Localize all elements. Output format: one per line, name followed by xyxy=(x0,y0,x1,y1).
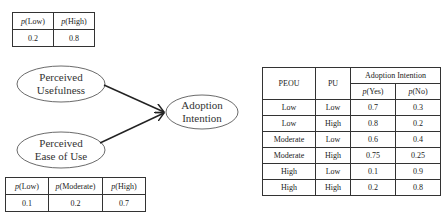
value-cell: 0.7 xyxy=(103,195,146,212)
label-line: Perceived xyxy=(17,137,105,150)
table-row: HighHigh0.20.8 xyxy=(263,180,441,196)
cell: Low xyxy=(316,100,351,116)
cell: 0.7 xyxy=(351,100,396,116)
adoption-intention-cpt: PEOU PU Adoption Intention p(Yes) p(No) … xyxy=(262,67,441,196)
node-label-pu: Perceived Usefulness xyxy=(17,71,105,97)
pu-probability-table: p(Low) p(High) 0.2 0.8 xyxy=(12,12,95,47)
header-cell: p(Low) xyxy=(13,13,54,30)
cell: High xyxy=(263,164,316,180)
label-line: Adoption xyxy=(166,99,238,112)
cell: 0.2 xyxy=(396,116,441,132)
value-cell: 0.2 xyxy=(49,195,103,212)
cell: Low xyxy=(263,116,316,132)
edge-pu-to-ai xyxy=(104,85,164,112)
header-cell: p(High) xyxy=(103,178,146,195)
header-cell: p(Yes) xyxy=(351,84,396,100)
cell: High xyxy=(263,180,316,196)
header-adoption-intention: Adoption Intention xyxy=(351,68,441,84)
cell: 0.1 xyxy=(351,164,396,180)
value-cell: 0.1 xyxy=(6,195,49,212)
table-row: LowLow0.70.3 xyxy=(263,100,441,116)
header-cell: p(No) xyxy=(396,84,441,100)
table-row: HighLow0.10.9 xyxy=(263,164,441,180)
label-line: Usefulness xyxy=(17,84,105,97)
cell: Low xyxy=(263,100,316,116)
cell: 0.8 xyxy=(351,116,396,132)
peou-probability-table: p(Low) p(Moderate) p(High) 0.1 0.2 0.7 xyxy=(5,177,146,212)
cell: 0.8 xyxy=(396,180,441,196)
value-cell: 0.2 xyxy=(13,30,54,47)
cell: 0.2 xyxy=(351,180,396,196)
table-row: ModerateLow0.60.4 xyxy=(263,132,441,148)
header-peou: PEOU xyxy=(263,68,316,100)
header-cell: p(High) xyxy=(54,13,95,30)
label-line: Ease of Use xyxy=(17,150,105,163)
cell: Moderate xyxy=(263,132,316,148)
table-row: LowHigh0.80.2 xyxy=(263,116,441,132)
label-line: Intention xyxy=(166,112,238,125)
header-pu: PU xyxy=(316,68,351,100)
edge-peou-to-ai xyxy=(100,113,164,143)
cell: High xyxy=(316,148,351,164)
cell: Low xyxy=(316,132,351,148)
table-row: ModerateHigh0.750.25 xyxy=(263,148,441,164)
label-line: Perceived xyxy=(17,71,105,84)
cell: Moderate xyxy=(263,148,316,164)
cell: 0.3 xyxy=(396,100,441,116)
cell: 0.6 xyxy=(351,132,396,148)
header-cell: p(Moderate) xyxy=(49,178,103,195)
cell: 0.4 xyxy=(396,132,441,148)
cell: Low xyxy=(316,164,351,180)
cell: High xyxy=(316,180,351,196)
node-label-peou: Perceived Ease of Use xyxy=(17,137,105,163)
header-cell: p(Low) xyxy=(6,178,49,195)
cell: 0.9 xyxy=(396,164,441,180)
cell: 0.25 xyxy=(396,148,441,164)
cell: 0.75 xyxy=(351,148,396,164)
cell: High xyxy=(316,116,351,132)
node-label-ai: Adoption Intention xyxy=(166,99,238,125)
value-cell: 0.8 xyxy=(54,30,95,47)
